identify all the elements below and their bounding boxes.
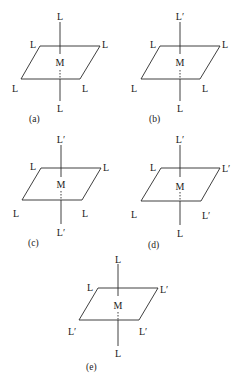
caption: (a) <box>29 114 40 125</box>
ligand-bottom-right: L <box>202 83 208 94</box>
figure-canvas: L L L L L L M (a) L′ L L L L L M (b) L′ … <box>0 0 242 379</box>
ligand-top: L <box>57 11 63 22</box>
ligand-bottom-right: L <box>82 208 88 219</box>
metal-center: M <box>57 179 66 190</box>
ligand-bottom-left: L′ <box>68 326 76 337</box>
metal-center: M <box>176 181 185 192</box>
ligand-bottom: L <box>177 103 183 114</box>
ligand-bottom: L <box>57 103 63 114</box>
diagram-b: L′ L L L L L M (b) <box>131 11 228 125</box>
ligand-top: L′ <box>176 11 184 22</box>
ligand-top: L′ <box>57 134 65 145</box>
ligand-bottom-right: L′ <box>202 210 210 221</box>
diagram-d: L′ L L L′ L L′ M (d) <box>131 134 230 251</box>
diagram-a: L L L L L L M (a) <box>12 11 108 125</box>
ligand-bottom-right: L <box>82 83 88 94</box>
ligand-top-right: L <box>222 39 228 50</box>
ligand-bottom: L <box>115 348 121 359</box>
ligand-top: L <box>115 254 121 265</box>
ligand-bottom: L <box>177 228 183 239</box>
diagram-c: L′ L′ L L L L M (c) <box>13 134 109 249</box>
metal-center: M <box>176 57 185 68</box>
ligand-bottom-left: L <box>131 209 137 220</box>
ligand-top-left: L <box>87 282 93 293</box>
caption: (b) <box>149 114 160 125</box>
ligand-top-left: L <box>150 39 156 50</box>
ligand-top-right: L′ <box>222 163 230 174</box>
ligand-top-left: L <box>30 161 36 172</box>
ligand-bottom-left: L <box>13 208 19 219</box>
ligand-top-left: L <box>150 162 156 173</box>
ligand-bottom-left: L <box>12 83 18 94</box>
ligand-bottom-left: L <box>131 83 137 94</box>
metal-center: M <box>114 300 123 311</box>
ligand-top-left: L <box>30 39 36 50</box>
caption: (d) <box>148 240 159 251</box>
ligand-top-right: L <box>103 162 109 173</box>
ligand-bottom: L′ <box>57 227 65 238</box>
diagram-e: L L L L′ L′ L′ M (e) <box>68 254 168 373</box>
caption: (c) <box>28 238 39 249</box>
caption: (e) <box>86 362 97 373</box>
ligand-bottom-right: L′ <box>139 326 147 337</box>
metal-center: M <box>56 57 65 68</box>
ligand-top-right: L′ <box>160 284 168 295</box>
ligand-top: L′ <box>176 134 184 145</box>
ligand-top-right: L <box>102 39 108 50</box>
